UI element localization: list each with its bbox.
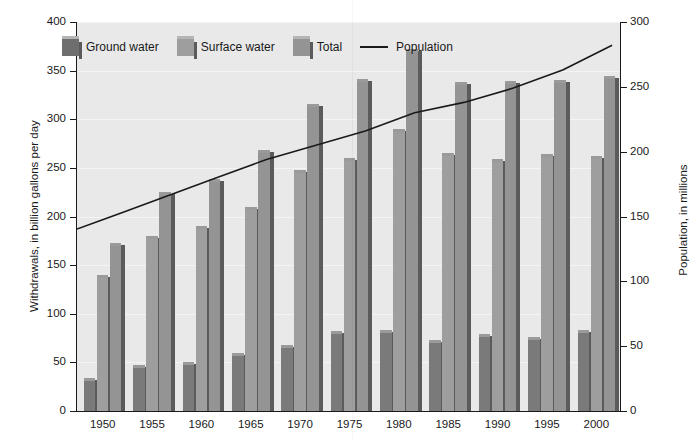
y-axis-right-tick-label: 100	[630, 275, 649, 287]
y-axis-left-tick	[70, 71, 76, 72]
bar-top-highlight	[133, 365, 145, 368]
bar-ground-water	[578, 330, 590, 411]
bar-surface-water	[393, 129, 405, 411]
legend-item-label: Ground water	[86, 40, 159, 54]
bar-total	[505, 81, 517, 411]
legend-swatch-shadow	[79, 42, 82, 59]
y-axis-right-tick-label: 150	[630, 211, 649, 223]
legend-swatch-shadow	[310, 42, 313, 59]
bar-top-highlight	[479, 334, 491, 337]
y-axis-right-tick-label: 50	[630, 340, 643, 352]
y-axis-right-tick	[621, 22, 627, 23]
legend-item-label: Surface water	[201, 40, 275, 54]
y-axis-right-tick	[621, 281, 627, 282]
plot-area	[77, 22, 620, 411]
legend-swatch-icon	[293, 39, 310, 56]
y-axis-right-tick	[621, 87, 627, 88]
bar-surface-water	[294, 170, 306, 411]
bar-shadow	[319, 106, 323, 411]
bar-total	[406, 49, 418, 411]
legend: Ground waterSurface waterTotalPopulation	[62, 36, 471, 58]
legend-swatch-icon	[62, 39, 79, 56]
bar-top-highlight	[591, 156, 603, 159]
bar-top-highlight	[232, 353, 244, 356]
bar-top-highlight	[442, 153, 454, 156]
bar-top-highlight	[357, 79, 369, 82]
bar-ground-water	[331, 331, 343, 411]
y-axis-right-tick-label: 300	[630, 16, 649, 28]
gridline	[77, 71, 620, 72]
legend-item[interactable]: Ground water	[62, 39, 159, 56]
bar-surface-water	[196, 226, 208, 411]
bar-shadow	[368, 81, 372, 411]
legend-swatch-highlight	[293, 36, 310, 39]
bar-total	[307, 104, 319, 411]
bar-top-highlight	[393, 129, 405, 132]
bar-shadow	[121, 245, 125, 411]
bar-surface-water	[492, 159, 504, 411]
bar-top-highlight	[159, 192, 171, 195]
x-axis-line	[76, 411, 621, 412]
bar-total	[357, 79, 369, 411]
gridline	[77, 119, 620, 120]
bar-top-highlight	[245, 207, 257, 210]
legend-item[interactable]: Population	[360, 40, 453, 54]
legend-item[interactable]: Total	[293, 39, 342, 56]
legend-line-icon	[360, 46, 388, 48]
bar-top-highlight	[505, 81, 517, 84]
bar-shadow	[220, 181, 224, 411]
y-axis-left-tick	[70, 22, 76, 23]
bar-shadow	[516, 83, 520, 411]
bar-top-highlight	[331, 331, 343, 334]
legend-swatch-icon	[177, 39, 194, 56]
bar-shadow	[270, 152, 274, 411]
legend-item-label: Population	[396, 40, 453, 54]
bar-ground-water	[479, 334, 491, 411]
bar-total	[258, 150, 270, 411]
bar-ground-water	[380, 330, 392, 411]
bar-surface-water	[591, 156, 603, 411]
y-axis-left-tick	[70, 362, 76, 363]
bar-top-highlight	[429, 340, 441, 343]
bar-shadow	[418, 51, 422, 411]
bar-shadow	[566, 82, 570, 411]
bar-top-highlight	[554, 80, 566, 83]
bar-ground-water	[528, 337, 540, 411]
bar-top-highlight	[183, 362, 195, 365]
bar-top-highlight	[578, 330, 590, 333]
bar-top-highlight	[307, 104, 319, 107]
y-axis-right-tick	[621, 411, 627, 412]
bar-top-highlight	[146, 236, 158, 239]
y-axis-left-tick	[70, 119, 76, 120]
gridline	[77, 22, 620, 23]
y-axis-left-tick	[70, 314, 76, 315]
y-axis-right-tick-label: 250	[630, 81, 649, 93]
bar-shadow	[171, 194, 175, 411]
y-axis-right-title: Population, in millions	[677, 70, 689, 370]
bar-ground-water	[429, 340, 441, 411]
x-axis-tick-label: 2000	[566, 419, 626, 431]
y-axis-right-tick	[621, 152, 627, 153]
bar-top-highlight	[258, 150, 270, 153]
legend-swatch-highlight	[62, 36, 79, 39]
bar-total	[554, 80, 566, 411]
bar-top-highlight	[84, 378, 96, 381]
bar-surface-water	[245, 207, 257, 411]
bar-surface-water	[146, 236, 158, 411]
bar-ground-water	[232, 353, 244, 411]
y-axis-left-tick-label: 400	[32, 16, 66, 28]
bar-top-highlight	[97, 275, 109, 278]
legend-item[interactable]: Surface water	[177, 39, 275, 56]
y-axis-left-line	[76, 22, 77, 412]
bar-total	[209, 179, 221, 411]
y-axis-right-tick	[621, 217, 627, 218]
y-axis-left-tick	[70, 217, 76, 218]
bar-shadow	[615, 78, 619, 412]
bar-surface-water	[97, 275, 109, 411]
bar-ground-water	[183, 362, 195, 411]
bar-ground-water	[84, 378, 96, 411]
y-axis-right-tick-label: 200	[630, 146, 649, 158]
bar-surface-water	[442, 153, 454, 411]
bar-ground-water	[281, 345, 293, 411]
bar-total	[604, 76, 616, 412]
